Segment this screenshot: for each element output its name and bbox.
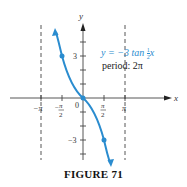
x-axis-label: x [173, 93, 178, 103]
tick-label-half-pi: π 2 [101, 102, 107, 119]
period-label: period: 2π [102, 60, 143, 71]
tick-label-pi: π [122, 104, 127, 113]
curve-arrow-down-icon [108, 159, 115, 167]
equation-label: y = −3 tan 12x [101, 47, 154, 60]
tick-label-3: 3 [73, 52, 77, 61]
curve-arrow-up-icon [52, 28, 59, 36]
svg-text:π: π [59, 102, 63, 110]
tangent-graph: y x 0 −π π − π 2 π 2 3 −3 [0, 0, 187, 187]
tick-label-neg-pi: −π [33, 104, 43, 113]
svg-text:2: 2 [59, 111, 63, 119]
x-axis-arrow-icon [164, 96, 172, 101]
svg-text:π: π [101, 102, 105, 110]
origin-label: 0 [75, 101, 79, 110]
point-origin [81, 96, 86, 101]
point-neg-half-pi [60, 54, 65, 59]
figure-caption: FIGURE 71 [0, 168, 187, 180]
svg-text:2: 2 [101, 111, 105, 119]
point-half-pi [102, 138, 107, 143]
y-axis-label: y [78, 11, 83, 21]
tick-label-neg-half-pi: − π 2 [55, 102, 64, 119]
y-axis-arrow-icon [81, 23, 86, 31]
tick-label-neg-3: −3 [68, 136, 77, 145]
